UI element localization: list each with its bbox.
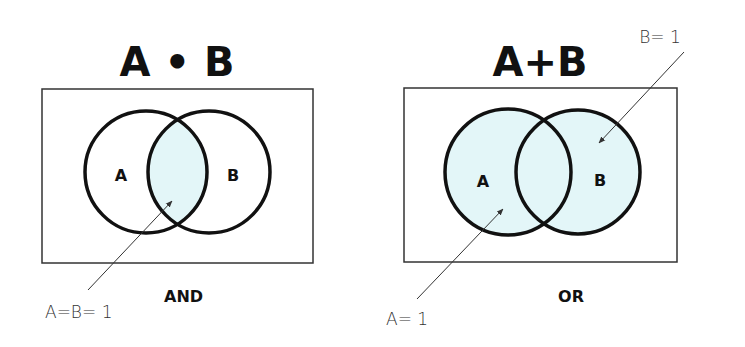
and-panel: A • B A B A=B= 1 AND bbox=[42, 39, 313, 322]
or-operation-label: OR bbox=[558, 287, 584, 306]
and-set-b-label: B bbox=[227, 166, 239, 185]
venn-diagrams: A • B A B A=B= 1 AND A+B A B A= 1 B= 1 O… bbox=[0, 0, 745, 347]
or-set-a-label: A bbox=[477, 172, 490, 191]
or-annotation-b: B= 1 bbox=[639, 27, 681, 47]
and-operation-label: AND bbox=[164, 287, 203, 306]
or-set-b-label: B bbox=[594, 171, 606, 190]
or-title: A+B bbox=[493, 39, 588, 85]
and-set-a-label: A bbox=[115, 166, 128, 185]
or-panel: A+B A B A= 1 B= 1 OR bbox=[386, 27, 684, 329]
or-annotation-a: A= 1 bbox=[386, 309, 428, 329]
and-title: A • B bbox=[120, 39, 235, 85]
and-annotation: A=B= 1 bbox=[45, 302, 112, 322]
